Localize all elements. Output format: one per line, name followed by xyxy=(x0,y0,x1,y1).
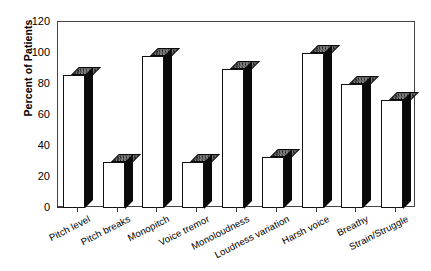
bar-front-face xyxy=(222,69,244,209)
bar-front-face xyxy=(182,162,204,209)
x-tick xyxy=(117,207,118,212)
bar xyxy=(341,76,371,208)
chart-figure: Percent of Patients 020406080100120 Pitc… xyxy=(0,0,431,271)
bar-front-face xyxy=(63,75,85,208)
bar-front-face xyxy=(142,56,164,208)
bar xyxy=(182,154,212,209)
bar xyxy=(302,45,332,208)
bar-side-face xyxy=(164,48,172,208)
x-tick xyxy=(276,207,277,212)
bar-side-face xyxy=(125,154,133,209)
bar-side-face xyxy=(204,154,212,209)
bar xyxy=(142,48,172,208)
bar-side-face xyxy=(284,149,292,208)
y-tick-label: 20 xyxy=(10,171,50,182)
bar-side-face xyxy=(324,45,332,208)
x-tick xyxy=(395,207,396,212)
y-tick-label: 0 xyxy=(10,202,50,213)
bar-front-face xyxy=(103,162,125,209)
x-tick xyxy=(316,207,317,212)
bar-side-face xyxy=(85,67,93,208)
x-tick xyxy=(77,207,78,212)
bar xyxy=(262,149,292,208)
y-tick-label: 100 xyxy=(10,47,50,58)
y-tick-label: 40 xyxy=(10,140,50,151)
x-tick xyxy=(355,207,356,212)
bar-side-face xyxy=(363,76,371,208)
bar xyxy=(381,92,411,209)
y-tick-label: 60 xyxy=(10,109,50,120)
bar xyxy=(103,154,133,209)
bar-front-face xyxy=(302,53,324,208)
y-tick-label: 120 xyxy=(10,16,50,27)
plot-area xyxy=(57,21,415,207)
y-tick-label: 80 xyxy=(10,78,50,89)
bar-side-face xyxy=(244,61,252,209)
x-tick xyxy=(236,207,237,212)
bar-front-face xyxy=(262,157,284,208)
bar xyxy=(63,67,93,208)
bar-front-face xyxy=(381,100,403,209)
bar-side-face xyxy=(403,92,411,209)
bar-front-face xyxy=(341,84,363,208)
x-tick xyxy=(156,207,157,212)
bar xyxy=(222,61,252,209)
x-tick xyxy=(196,207,197,212)
